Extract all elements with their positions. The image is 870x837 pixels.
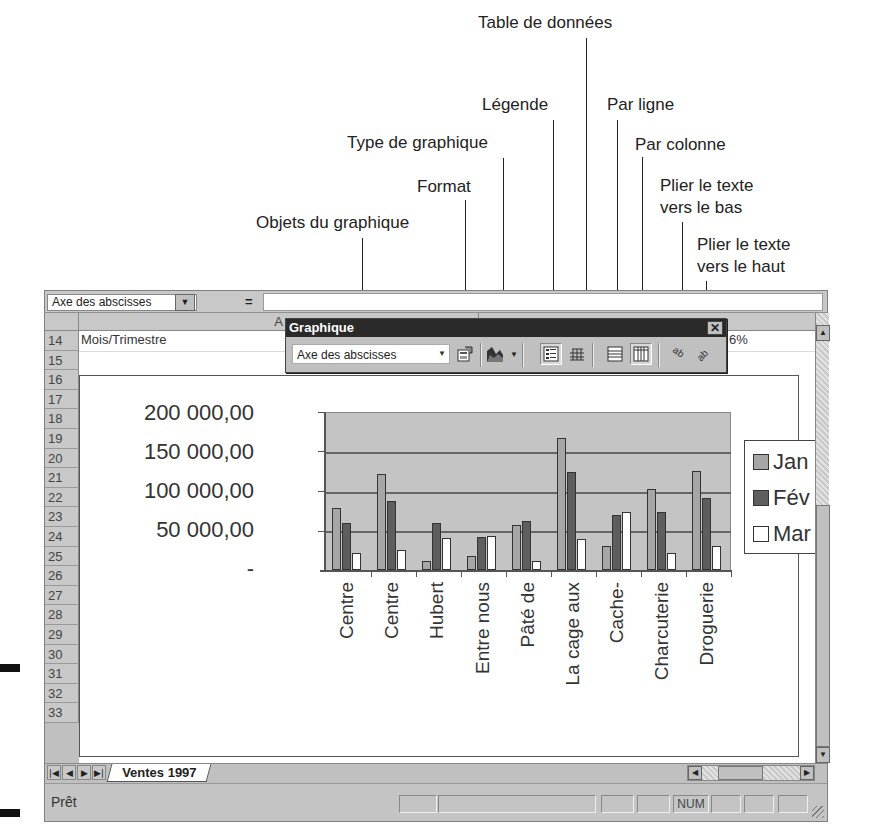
bar-mar-7[interactable]: [667, 553, 676, 570]
chart-toolbar: Graphique ✕ Axe des abscisses ▼ ▼ ab ab: [285, 318, 727, 373]
toolbar-title[interactable]: Graphique: [286, 319, 726, 337]
row-header[interactable]: 24: [45, 527, 79, 547]
bar-fév-0[interactable]: [342, 523, 351, 570]
angle-text-upward-button[interactable]: ab: [692, 343, 714, 365]
bar-mar-5[interactable]: [577, 539, 586, 570]
cell-grid[interactable]: Mois/Trimestre 6% 200 000,00 150 000,00 …: [79, 331, 815, 763]
bar-fév-6[interactable]: [612, 515, 621, 570]
cell-a14[interactable]: Mois/Trimestre: [81, 332, 166, 347]
bar-jan-4[interactable]: [512, 525, 521, 570]
first-sheet-icon[interactable]: |◀: [47, 765, 61, 780]
bar-jan-6[interactable]: [602, 546, 611, 570]
bar-jan-5[interactable]: [557, 438, 566, 570]
vertical-scrollbar[interactable]: ▲ ▼: [815, 313, 829, 763]
row-header[interactable]: 21: [45, 468, 79, 488]
x-tick: [371, 571, 372, 577]
row-header[interactable]: 15: [45, 351, 79, 371]
row-header[interactable]: 19: [45, 429, 79, 449]
angle-text-downward-icon: ab: [671, 346, 687, 362]
data-table-button[interactable]: [566, 343, 588, 365]
format-button[interactable]: [454, 343, 476, 365]
by-row-button[interactable]: [604, 343, 626, 365]
resize-grip-icon[interactable]: [812, 806, 824, 818]
status-panel: [637, 795, 670, 813]
y-tick-label: 100 000,00: [94, 478, 254, 504]
bar-fév-2[interactable]: [432, 523, 441, 570]
row-header[interactable]: 17: [45, 390, 79, 410]
row-header[interactable]: 32: [45, 684, 79, 704]
last-sheet-icon[interactable]: ▶|: [92, 765, 106, 780]
by-column-button[interactable]: [630, 343, 652, 365]
value-axis[interactable]: [324, 412, 326, 572]
data-table-icon: [569, 347, 585, 361]
bar-jan-8[interactable]: [692, 471, 701, 570]
callout-par-colonne: Par colonne: [635, 134, 726, 155]
bar-jan-7[interactable]: [647, 489, 656, 570]
row-header[interactable]: 29: [45, 625, 79, 645]
status-panel: [601, 795, 634, 813]
bar-jan-2[interactable]: [422, 561, 431, 570]
row-header[interactable]: 26: [45, 566, 79, 586]
row-header[interactable]: 18: [45, 409, 79, 429]
cell-partial-percent[interactable]: 6%: [729, 332, 748, 347]
bar-fév-1[interactable]: [387, 501, 396, 570]
row-header[interactable]: 28: [45, 605, 79, 625]
prev-sheet-icon[interactable]: ◀: [62, 765, 76, 780]
close-icon[interactable]: ✕: [707, 321, 723, 335]
horizontal-scrollbar[interactable]: ◀ ▶: [687, 765, 815, 781]
scroll-left-icon[interactable]: ◀: [688, 766, 702, 780]
scroll-right-icon[interactable]: ▶: [800, 766, 814, 780]
bar-jan-0[interactable]: [332, 508, 341, 570]
bar-mar-3[interactable]: [487, 536, 496, 570]
sheet-tab-ventes-1997[interactable]: Ventes 1997: [107, 764, 212, 782]
equals-sign: =: [245, 294, 253, 309]
row-header[interactable]: 30: [45, 645, 79, 665]
bar-jan-1[interactable]: [377, 474, 386, 570]
scroll-up-icon[interactable]: ▲: [816, 325, 830, 341]
chart-objects-select[interactable]: Axe des abscisses: [292, 344, 450, 364]
bar-mar-0[interactable]: [352, 553, 361, 570]
bar-fév-5[interactable]: [567, 472, 576, 570]
bar-mar-2[interactable]: [442, 538, 451, 570]
x-tick: [506, 571, 507, 577]
bar-fév-8[interactable]: [702, 498, 711, 570]
bar-fév-4[interactable]: [522, 521, 531, 570]
legend-button[interactable]: [540, 343, 562, 365]
row-header[interactable]: 23: [45, 507, 79, 527]
bar-fév-3[interactable]: [477, 537, 486, 570]
row-header[interactable]: 16: [45, 370, 79, 390]
name-box-dropdown-icon[interactable]: ▼: [175, 294, 195, 311]
bar-fév-7[interactable]: [657, 512, 666, 570]
vertical-scroll-thumb[interactable]: [816, 505, 830, 747]
by-column-icon: [633, 346, 649, 362]
chart-type-button[interactable]: ▼: [486, 343, 518, 365]
embedded-chart[interactable]: 200 000,00 150 000,00 100 000,00 50 000,…: [79, 375, 799, 757]
select-all-corner[interactable]: [45, 313, 79, 331]
row-header[interactable]: 33: [45, 703, 79, 723]
row-header[interactable]: 14: [45, 331, 79, 351]
bar-mar-8[interactable]: [712, 546, 721, 570]
row-header[interactable]: 25: [45, 547, 79, 567]
toolbar-separator: [658, 343, 660, 367]
callout-plier-bas-line2: vers le bas: [660, 197, 742, 218]
chevron-down-icon[interactable]: ▼: [438, 344, 448, 364]
svg-text:ab: ab: [671, 346, 687, 360]
category-label-text: Droguerie: [697, 582, 719, 665]
row-header[interactable]: 22: [45, 488, 79, 508]
formula-input[interactable]: [263, 293, 823, 311]
bar-mar-4[interactable]: [532, 561, 541, 570]
category-axis[interactable]: [320, 570, 732, 572]
row-header[interactable]: 31: [45, 664, 79, 684]
row-header[interactable]: 27: [45, 586, 79, 606]
chevron-down-icon[interactable]: ▼: [510, 350, 518, 359]
horizontal-scroll-thumb[interactable]: [718, 766, 763, 780]
scroll-down-icon[interactable]: ▼: [816, 747, 830, 763]
bar-mar-1[interactable]: [397, 550, 406, 570]
bar-mar-6[interactable]: [622, 512, 631, 570]
plot-area[interactable]: [326, 412, 731, 570]
callout-legende: Légende: [482, 94, 548, 115]
bar-jan-3[interactable]: [467, 556, 476, 570]
angle-text-downward-button[interactable]: ab: [668, 343, 690, 365]
next-sheet-icon[interactable]: ▶: [77, 765, 91, 780]
row-header[interactable]: 20: [45, 449, 79, 469]
